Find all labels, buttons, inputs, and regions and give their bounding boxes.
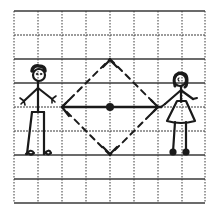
boy-right-hand [52, 96, 56, 103]
boy-left-foot [26, 151, 34, 155]
boy-eye [40, 73, 42, 75]
girl-head [174, 74, 186, 86]
boy-left-hand [20, 98, 25, 105]
girl-face [178, 78, 179, 81]
boy-right-arm [38, 88, 52, 99]
boy-eye [36, 73, 38, 75]
girl-figure [161, 73, 197, 155]
girl-right-foot [184, 150, 189, 155]
girl-left-leg [173, 122, 175, 152]
girl-right-arm [182, 91, 193, 99]
boy-head [33, 69, 45, 81]
girl-right-hand [193, 98, 197, 99]
girl-left-foot [171, 150, 176, 155]
girl-dress [167, 101, 195, 123]
center-point-dot [106, 103, 114, 111]
diagram-canvas [0, 0, 213, 221]
boy-left-leg [27, 112, 32, 154]
boy-left-arm [24, 88, 38, 101]
